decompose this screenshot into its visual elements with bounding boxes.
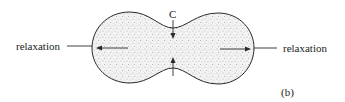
- center-c-label: C: [169, 8, 176, 20]
- panel-label: (b): [281, 86, 294, 99]
- right-relaxation-label: relaxation: [283, 42, 327, 54]
- dumbbell-diagram: relaxation relaxation C (b): [0, 0, 345, 102]
- left-relaxation-label: relaxation: [16, 40, 60, 52]
